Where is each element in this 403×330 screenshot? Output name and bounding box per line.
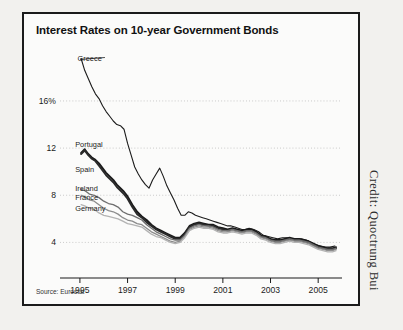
series-line xyxy=(81,149,336,248)
series-line xyxy=(81,205,336,252)
x-axis-tick-label: 2001 xyxy=(213,285,232,295)
y-axis-tick-label: 16% xyxy=(39,96,57,106)
series-label-germany: Germany xyxy=(75,204,106,213)
series-label-france: France xyxy=(75,193,98,202)
line-chart-svg: 16%1284199519971999200120032005GreecePor… xyxy=(22,12,360,306)
x-axis-tick-label: 2005 xyxy=(309,285,328,295)
y-axis-tick-label: 8 xyxy=(51,190,56,200)
credit-container: Credit: Quoctrung Bui xyxy=(366,170,396,320)
chart-figure: Interest Rates on 10-year Government Bon… xyxy=(0,0,403,330)
series-label-ireland: Ireland xyxy=(75,184,98,193)
series-label-portugal: Portugal xyxy=(75,140,103,149)
x-axis-tick-label: 1999 xyxy=(166,285,185,295)
y-axis-tick-label: 12 xyxy=(46,143,56,153)
series-label-spain: Spain xyxy=(75,165,94,174)
chart-plot-area: 16%1284199519971999200120032005GreecePor… xyxy=(22,12,360,306)
y-axis-tick-label: 4 xyxy=(51,237,56,247)
x-axis-tick-label: 2003 xyxy=(261,285,280,295)
x-axis-tick-label: 1997 xyxy=(118,285,137,295)
credit-label: Credit: Quoctrung Bui xyxy=(366,170,381,291)
chart-source: Source: Eurostat xyxy=(36,288,84,295)
series-line xyxy=(81,150,336,249)
